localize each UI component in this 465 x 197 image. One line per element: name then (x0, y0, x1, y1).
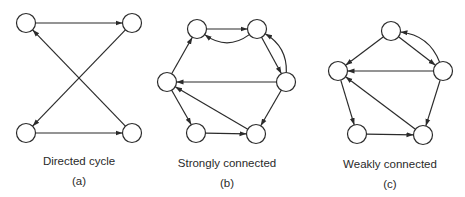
node-bl (17, 124, 36, 143)
caption-strongly-connected: Strongly connected (178, 157, 276, 169)
panel-weakly-connected (329, 22, 453, 145)
caption-weakly-connected: Weakly connected (343, 158, 437, 170)
node-t (382, 22, 401, 41)
node-tl (188, 20, 207, 39)
edge-r-to-t (400, 32, 439, 62)
edge-l-to-tl (172, 37, 193, 73)
node-tr (248, 20, 267, 39)
edge-tr-to-r (262, 37, 282, 73)
edge-r-to-br (426, 80, 440, 126)
node-tl (17, 14, 36, 33)
node-r (277, 73, 296, 92)
panel-directed-cycle (17, 14, 142, 143)
edge-bl-to-br (366, 134, 413, 135)
node-bl (187, 124, 206, 143)
node-br (123, 124, 142, 143)
node-r (434, 62, 453, 81)
edge-t-to-r (399, 37, 436, 65)
edge-tr-to-tl (205, 35, 250, 43)
node-br (247, 125, 266, 144)
node-l (329, 62, 348, 81)
caption-directed-cycle: Directed cycle (43, 155, 115, 167)
panel-label-b: (b) (220, 177, 234, 189)
node-l (158, 73, 177, 92)
edge-r-to-br (261, 90, 282, 126)
node-bl (348, 125, 367, 144)
edge-br-to-l (346, 77, 416, 130)
panel-strongly-connected (158, 20, 296, 144)
panel-label-c: (c) (383, 178, 396, 190)
node-br (414, 126, 433, 145)
node-tr (123, 14, 142, 33)
edge-t-to-l (346, 37, 384, 66)
edge-r-to-tr (265, 34, 286, 73)
edge-l-to-bl (172, 90, 192, 124)
panel-label-a: (a) (72, 175, 86, 187)
edge-l-to-bl (341, 80, 355, 125)
edge-bl-to-br (205, 133, 246, 134)
edge-br-to-l (175, 87, 248, 129)
